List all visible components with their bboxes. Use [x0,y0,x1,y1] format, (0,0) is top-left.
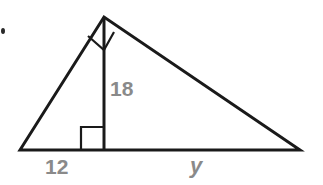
base-right-length-label: y [190,155,202,177]
outer-triangle-outline [20,17,300,150]
edge-artifact-speck [1,28,5,34]
altitude-length-label: 18 [110,78,133,99]
base-left-length-label: 12 [45,156,68,177]
right-angle-mark-foot [81,127,104,150]
geometry-figure: 18 12 y [0,0,323,185]
